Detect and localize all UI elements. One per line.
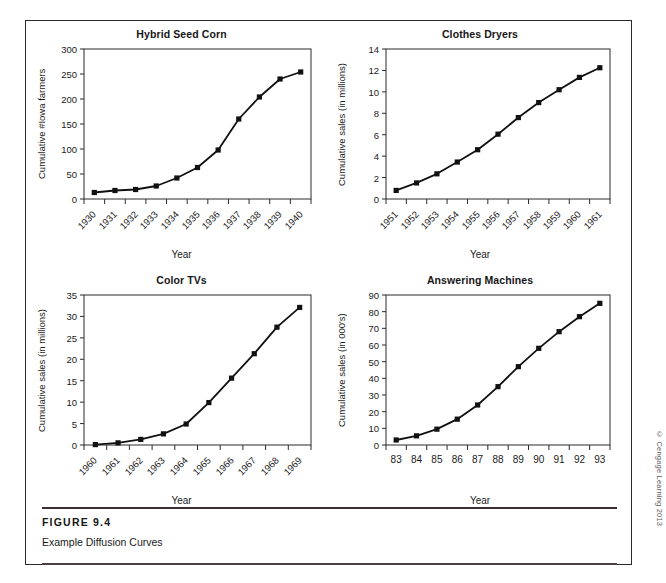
figure-page: Hybrid Seed Corn 05010015020025030019301… (0, 0, 666, 583)
data-series-line (396, 68, 600, 191)
y-axis-tick-label: 100 (61, 144, 77, 155)
y-axis-tick-label: 25 (66, 332, 77, 343)
plot-frame (386, 49, 610, 199)
data-point-marker (274, 325, 279, 330)
plot-area: 0102030405060708090838485868788899091929… (334, 287, 626, 523)
data-point-marker (161, 431, 166, 436)
data-point-marker (516, 364, 521, 369)
data-point-marker (252, 351, 257, 356)
data-point-marker (394, 188, 399, 193)
data-point-marker (138, 437, 143, 442)
y-axis-tick-label: 2 (374, 172, 379, 183)
y-axis-label: Cumulative #Iowa farmers (36, 49, 47, 199)
data-point-marker (577, 314, 582, 319)
chart-title: Answering Machines (334, 273, 626, 287)
y-axis-label: Cumulative sales (in millions) (36, 295, 47, 445)
x-axis-tick-label: 89 (513, 454, 524, 465)
chart-panel-hybrid-seed-corn: Hybrid Seed Corn 05010015020025030019301… (34, 27, 329, 277)
data-point-marker (257, 94, 262, 99)
x-axis-tick-label: 92 (574, 454, 585, 465)
y-axis-tick-label: 150 (61, 119, 77, 130)
data-point-marker (174, 175, 179, 180)
data-point-marker (597, 65, 602, 70)
y-axis-tick-label: 200 (61, 94, 77, 105)
data-point-marker (495, 384, 500, 389)
data-point-marker (297, 305, 302, 310)
data-point-marker (475, 147, 480, 152)
y-axis-tick-label: 15 (66, 375, 77, 386)
y-axis-tick-label: 35 (66, 290, 77, 301)
y-axis-tick-label: 250 (61, 69, 77, 80)
data-point-marker (455, 159, 460, 164)
data-point-marker (133, 187, 138, 192)
caption-top-rule (42, 507, 617, 509)
y-axis-tick-label: 20 (66, 354, 77, 365)
x-axis-label: Year (34, 495, 329, 506)
data-point-marker (434, 171, 439, 176)
y-axis-tick-label: 10 (368, 86, 379, 97)
x-axis-label: Year (334, 249, 626, 260)
plot-area: 0246810121419511952195319541955195619571… (334, 41, 626, 277)
y-axis-tick-label: 8 (374, 108, 379, 119)
figure-caption-block: FIGURE 9.4 Example Diffusion Curves (42, 507, 617, 548)
y-axis-tick-label: 12 (368, 65, 379, 76)
data-point-marker (184, 421, 189, 426)
data-point-marker (154, 183, 159, 188)
data-point-marker (556, 329, 561, 334)
x-axis-tick-label: 83 (391, 454, 402, 465)
data-point-marker (414, 180, 419, 185)
x-axis-tick-label: 90 (533, 454, 544, 465)
x-axis-tick-label: 88 (492, 454, 503, 465)
chart-panel-answering-machines: Answering Machines 010203040506070809083… (334, 273, 626, 523)
plot-area: 0501001502002503001930193119321933193419… (34, 41, 329, 277)
data-point-marker (536, 100, 541, 105)
data-point-marker (536, 346, 541, 351)
y-axis-tick-label: 10 (66, 397, 77, 408)
y-axis-tick-label: 70 (368, 323, 379, 334)
figure-caption-text: Example Diffusion Curves (42, 536, 617, 548)
y-axis-tick-label: 0 (374, 440, 379, 451)
data-point-marker (206, 400, 211, 405)
data-point-marker (394, 437, 399, 442)
chart-svg (34, 41, 329, 277)
y-axis-label: Cumulative sales (in 000's) (336, 295, 347, 445)
data-point-marker (92, 190, 97, 195)
y-axis-tick-label: 50 (368, 356, 379, 367)
plot-area: 0510152025303519601961196219631964196519… (34, 287, 329, 523)
x-axis-tick-label: 84 (411, 454, 422, 465)
data-point-marker (455, 417, 460, 422)
y-axis-tick-label: 14 (368, 44, 379, 55)
y-axis-label: Cumulative sales (in millions) (336, 49, 347, 199)
data-point-marker (597, 301, 602, 306)
data-series-line (95, 307, 299, 444)
x-axis-tick-label: 86 (452, 454, 463, 465)
data-point-marker (475, 402, 480, 407)
data-point-marker (298, 69, 303, 74)
data-point-marker (112, 188, 117, 193)
chart-title: Hybrid Seed Corn (34, 27, 329, 41)
data-point-marker (434, 427, 439, 432)
plot-frame (84, 295, 311, 445)
data-point-marker (277, 76, 282, 81)
y-axis-tick-label: 60 (368, 340, 379, 351)
data-point-marker (195, 165, 200, 170)
x-axis-tick-label: 87 (472, 454, 483, 465)
figure-frame: Hybrid Seed Corn 05010015020025030019301… (25, 20, 632, 565)
data-point-marker (414, 433, 419, 438)
y-axis-tick-label: 30 (66, 311, 77, 322)
plot-frame (386, 295, 610, 445)
caption-bottom-rule (42, 563, 617, 565)
data-point-marker (495, 132, 500, 137)
y-axis-tick-label: 50 (66, 169, 77, 180)
data-point-marker (216, 147, 221, 152)
y-axis-tick-label: 10 (368, 423, 379, 434)
data-point-marker (516, 115, 521, 120)
y-axis-tick-label: 4 (374, 151, 379, 162)
data-point-marker (93, 442, 98, 447)
data-point-marker (577, 75, 582, 80)
y-axis-tick-label: 0 (72, 440, 77, 451)
y-axis-tick-label: 300 (61, 44, 77, 55)
y-axis-tick-label: 6 (374, 129, 379, 140)
data-point-marker (556, 87, 561, 92)
data-series-line (396, 303, 600, 440)
